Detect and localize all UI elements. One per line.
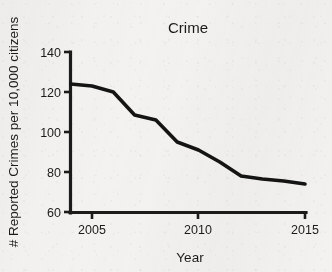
- crime-line-chart: Crime # Reported Crimes per 10,000 citiz…: [0, 0, 332, 272]
- x-tick-label-2010: 2010: [184, 223, 212, 237]
- y-tick-label-140: 140: [40, 46, 61, 60]
- x-tick-label-2015: 2015: [291, 223, 319, 237]
- crime-trend-line: [71, 84, 305, 184]
- y-tick-label-60: 60: [47, 206, 61, 220]
- chart-canvas: Crime # Reported Crimes per 10,000 citiz…: [0, 0, 332, 272]
- y-tick-label-100: 100: [40, 126, 61, 140]
- x-tick-label-2005: 2005: [78, 223, 106, 237]
- y-tick-label-80: 80: [47, 166, 61, 180]
- y-tick-label-120: 120: [40, 86, 61, 100]
- y-axis-title: # Reported Crimes per 10,000 citizens: [6, 17, 21, 248]
- x-axis-title: Year: [176, 250, 204, 265]
- chart-title: Crime: [168, 19, 208, 36]
